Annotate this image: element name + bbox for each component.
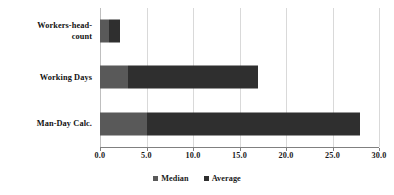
category-label-man-day-calc: Man-Day Calc. (0, 118, 92, 129)
plot-area (100, 8, 379, 147)
bar-segment-median (100, 20, 109, 43)
x-tick-label: 5.0 (127, 151, 167, 160)
category-label-line: Man-Day Calc. (0, 118, 92, 129)
bar-row (100, 54, 379, 100)
category-label-line: Workers-head- (0, 20, 92, 31)
x-tick-label: 25.0 (313, 151, 353, 160)
stacked-bar (100, 20, 120, 43)
x-tick-label: 15.0 (220, 151, 260, 160)
bar-rows (100, 8, 379, 147)
bar-chart: Workers-head- count Working Days Man-Day… (0, 0, 394, 195)
chart-legend: MedianAverage (0, 174, 394, 183)
bar-segment-average (147, 112, 361, 135)
x-tick-label: 10.0 (173, 151, 213, 160)
x-tick-label: 0.0 (80, 151, 120, 160)
category-axis-labels: Workers-head- count Working Days Man-Day… (0, 8, 96, 147)
x-tick-label: 30.0 (359, 151, 394, 160)
category-label-working-days: Working Days (0, 72, 92, 83)
x-axis-ticks: 0.05.010.015.020.025.030.0 (100, 148, 379, 162)
legend-item-median[interactable]: Median (153, 174, 188, 183)
stacked-bar (100, 66, 258, 89)
legend-label: Average (212, 174, 241, 183)
legend-swatch-icon (204, 176, 209, 181)
bar-segment-average (109, 20, 119, 43)
category-label-line: Working Days (0, 72, 92, 83)
bar-row (100, 101, 379, 147)
category-label-line: count (0, 31, 92, 42)
gridline (379, 8, 380, 147)
stacked-bar (100, 112, 360, 135)
category-label-workers-head-count: Workers-head- count (0, 20, 92, 42)
bar-segment-average (128, 66, 258, 89)
legend-label: Median (161, 174, 188, 183)
legend-swatch-icon (153, 176, 158, 181)
bar-segment-median (100, 66, 128, 89)
bar-segment-median (100, 112, 147, 135)
x-tick-label: 20.0 (266, 151, 306, 160)
legend-item-average[interactable]: Average (204, 174, 241, 183)
bar-row (100, 8, 379, 54)
